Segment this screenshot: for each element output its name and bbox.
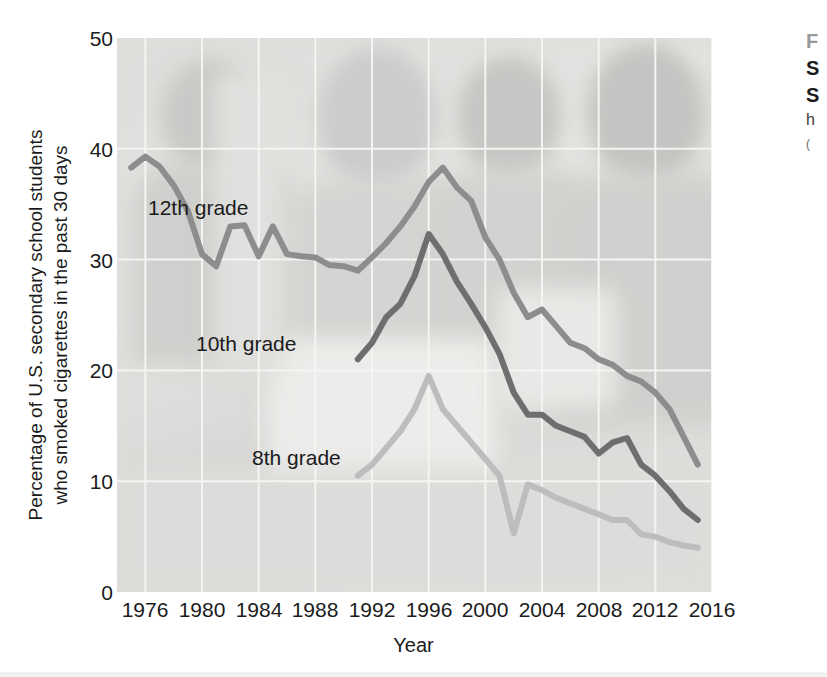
x-tick-1992: 1992 bbox=[342, 598, 402, 622]
series-label-grade-12: 12th grade bbox=[148, 196, 248, 220]
x-tick-1980: 1980 bbox=[172, 598, 232, 622]
chart-plot-area bbox=[117, 38, 712, 592]
y-tick-20: 20 bbox=[73, 359, 113, 383]
x-tick-2016: 2016 bbox=[682, 598, 742, 622]
figure-caption: F S S h ( bbox=[806, 28, 827, 158]
x-tick-2000: 2000 bbox=[455, 598, 515, 622]
x-tick-1984: 1984 bbox=[229, 598, 289, 622]
y-tick-40: 40 bbox=[73, 138, 113, 162]
caption-source: ( bbox=[806, 131, 827, 158]
caption-body: h bbox=[806, 109, 827, 131]
caption-figure-marker: F bbox=[806, 30, 818, 52]
x-tick-1988: 1988 bbox=[285, 598, 345, 622]
x-tick-2008: 2008 bbox=[569, 598, 629, 622]
series-label-grade-10: 10th grade bbox=[196, 332, 296, 356]
y-tick-10: 10 bbox=[73, 470, 113, 494]
y-axis-title-line1: Percentage of U.S. secondary school stud… bbox=[23, 45, 48, 605]
caption-title-line1: S bbox=[806, 55, 827, 82]
x-tick-2012: 2012 bbox=[625, 598, 685, 622]
chart-grid-and-series bbox=[117, 38, 712, 592]
y-tick-50: 50 bbox=[73, 27, 113, 51]
figure-container: 50 40 30 20 10 0 1976 1980 1984 1988 199… bbox=[0, 0, 827, 677]
y-tick-30: 30 bbox=[73, 249, 113, 273]
series-line-grade-10 bbox=[358, 234, 698, 520]
caption-title-line2: S bbox=[806, 82, 827, 109]
y-tick-0: 0 bbox=[73, 581, 113, 605]
vertical-gridlines bbox=[145, 38, 712, 592]
series-line-grade-8 bbox=[358, 376, 698, 548]
series-label-grade-8: 8th grade bbox=[252, 446, 341, 470]
x-axis-title: Year bbox=[0, 634, 827, 657]
x-tick-1996: 1996 bbox=[399, 598, 459, 622]
x-tick-2004: 2004 bbox=[512, 598, 572, 622]
y-axis-title-line2: who smoked cigarettes in the past 30 day… bbox=[48, 45, 73, 605]
x-tick-1976: 1976 bbox=[115, 598, 175, 622]
y-axis-title: Percentage of U.S. secondary school stud… bbox=[23, 45, 73, 605]
scan-edge-bottom bbox=[0, 672, 827, 677]
